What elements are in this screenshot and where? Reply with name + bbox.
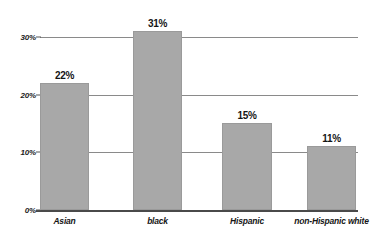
bar-value-black: 31% bbox=[148, 18, 167, 29]
bar-value-asian: 22% bbox=[55, 70, 74, 81]
ytick-label-30: 30% bbox=[21, 33, 36, 42]
plot-area: 30% 20% 10% 0% 22% Asian 31% black 15% H… bbox=[40, 37, 358, 210]
bar-category-black: black bbox=[147, 216, 168, 226]
bar-asian[interactable]: 22% Asian bbox=[40, 83, 89, 210]
ytick-label-0: 0% bbox=[25, 206, 36, 215]
bar-black[interactable]: 31% black bbox=[133, 31, 182, 210]
bar-value-hispanic: 15% bbox=[237, 110, 256, 121]
bar-non-hispanic-white[interactable]: 11% non-Hispanic white bbox=[307, 146, 356, 210]
bar-category-hispanic: Hispanic bbox=[230, 216, 264, 226]
bar-category-non-hispanic-white: non-Hispanic white bbox=[294, 216, 368, 226]
ytick-dash-30 bbox=[36, 37, 41, 38]
bar-chart: 30% 20% 10% 0% 22% Asian 31% black 15% H… bbox=[0, 0, 382, 241]
bar-category-asian: Asian bbox=[53, 216, 75, 226]
bar-hispanic[interactable]: 15% Hispanic bbox=[222, 123, 272, 210]
axis-baseline bbox=[36, 210, 358, 212]
bar-value-non-hispanic-white: 11% bbox=[322, 133, 341, 144]
ytick-label-10: 10% bbox=[21, 148, 36, 157]
gridline-30 bbox=[40, 37, 358, 38]
ytick-label-20: 20% bbox=[21, 91, 36, 100]
